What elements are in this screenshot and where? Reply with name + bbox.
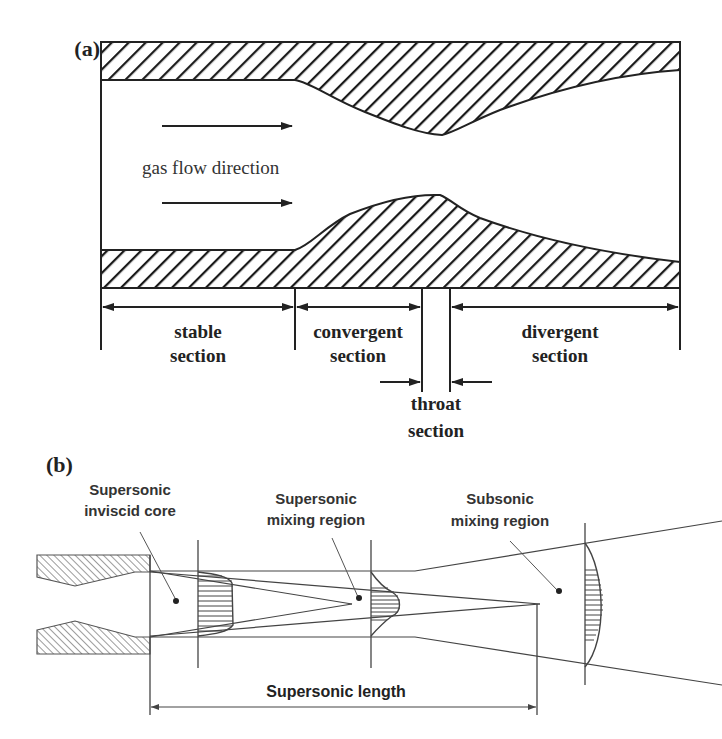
bottom-nozzle-wall — [101, 195, 680, 288]
panel-b: (b) — [37, 452, 722, 715]
nozzle-bottom-block — [37, 621, 150, 654]
point-supersonic-mixing — [356, 595, 362, 601]
subsonic-mixing-label-1: Subsonic — [466, 490, 534, 507]
jet-outer-boundary-top — [150, 521, 722, 571]
divergent-section-label-2: section — [532, 345, 588, 366]
convergent-section-label-1: convergent — [313, 321, 403, 342]
supersonic-length-label: Supersonic length — [266, 683, 406, 700]
panel-a: (a) gas flow direction stable section co… — [74, 36, 680, 441]
supersonic-mixing-label-2: mixing region — [267, 511, 365, 528]
supersonic-boundary-top — [150, 572, 540, 604]
nozzle-diagram: (a) gas flow direction stable section co… — [0, 0, 722, 739]
inviscid-core-label-1: Supersonic — [89, 481, 171, 498]
divergent-section-label-1: divergent — [521, 321, 599, 342]
core-boundary-top — [150, 571, 352, 604]
top-nozzle-wall — [101, 42, 680, 135]
nozzle-top-block — [37, 555, 150, 586]
convergent-section-label-2: section — [330, 345, 386, 366]
stable-section-label-2: section — [170, 345, 226, 366]
throat-section-label-1: throat — [411, 393, 462, 414]
subsonic-mixing-label-2: mixing region — [451, 512, 549, 529]
velocity-profile-wide — [585, 543, 603, 667]
inviscid-core-label-2: inviscid core — [84, 502, 176, 519]
panel-b-label: (b) — [46, 452, 73, 477]
panel-a-label: (a) — [74, 36, 100, 61]
velocity-profile-rounded — [371, 572, 400, 636]
jet-outer-boundary-bottom — [150, 637, 722, 685]
supersonic-mixing-label-1: Supersonic — [275, 490, 357, 507]
core-boundary-bottom — [150, 604, 352, 637]
flow-direction-label: gas flow direction — [142, 157, 280, 178]
stable-section-label-1: stable — [174, 321, 222, 342]
throat-section-label-2: section — [408, 420, 464, 441]
point-inviscid-core — [173, 598, 179, 604]
point-subsonic-mixing — [556, 588, 562, 594]
